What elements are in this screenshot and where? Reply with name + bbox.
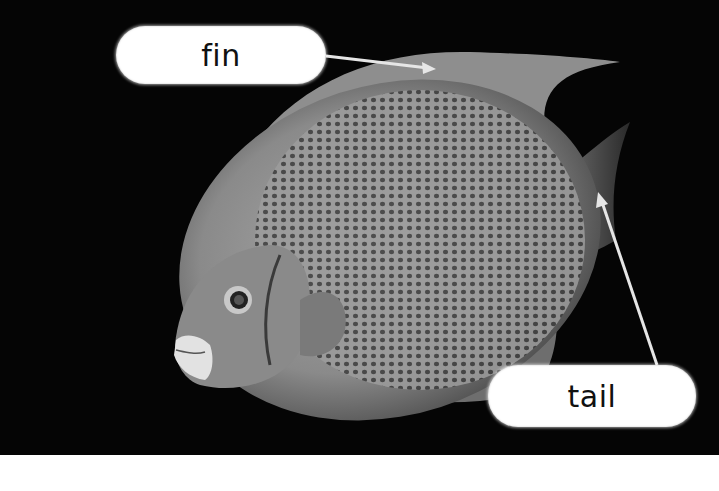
fish-mouth <box>174 335 212 380</box>
tail-label: tail <box>488 365 696 427</box>
fish-photo: fin tail <box>0 0 719 455</box>
page-margin <box>0 455 719 491</box>
fin-label-text: fin <box>201 38 240 73</box>
fin-label: fin <box>116 26 326 84</box>
tail-label-text: tail <box>568 379 617 414</box>
